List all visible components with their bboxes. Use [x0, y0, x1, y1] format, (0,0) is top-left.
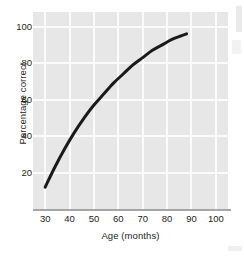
x-axis-title: Age (months)	[33, 230, 228, 241]
y-tick-label: 100	[6, 21, 32, 32]
scan-artifact	[228, 246, 242, 251]
scan-artifact	[232, 40, 241, 54]
x-tick-label: 100	[196, 213, 236, 224]
scan-artifact	[236, 6, 242, 32]
chart-figure: 20406080100 30405060708090100 Percentage…	[0, 0, 244, 256]
y-axis-title: Percentage correct	[17, 34, 28, 174]
